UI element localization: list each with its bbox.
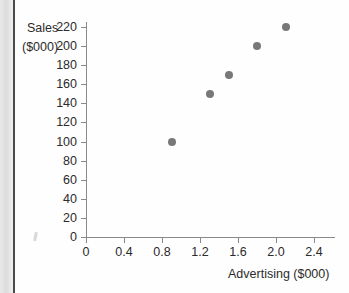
y-tick-mark (81, 46, 87, 47)
scatter-plot: Sales ($000) Advertising ($000) 02040608… (0, 0, 349, 293)
x-tick-label: 1.2 (191, 246, 208, 259)
x-tick-label: 0.8 (153, 246, 170, 259)
x-tick-mark (86, 237, 87, 243)
x-tick-label: 2.4 (305, 246, 322, 259)
y-tick-label: 120 (56, 116, 77, 129)
y-tick-mark (81, 103, 87, 104)
data-point (168, 138, 176, 146)
x-tick-label: 2.0 (267, 246, 284, 259)
data-point (282, 23, 290, 31)
x-tick-mark (314, 237, 315, 243)
y-tick-label: 180 (56, 59, 77, 72)
y-tick-mark (81, 27, 87, 28)
y-tick-label: 60 (63, 174, 77, 187)
y-tick-mark (81, 218, 87, 219)
data-point (225, 71, 233, 79)
y-tick-label: 220 (56, 21, 77, 34)
y-tick-mark (81, 122, 87, 123)
x-tick-label: 0.4 (115, 246, 132, 259)
y-tick-label: 100 (56, 136, 77, 149)
y-axis-title-line2: ($000) (22, 41, 58, 54)
y-axis-title-line1: Sales (27, 22, 58, 35)
data-point (206, 90, 214, 98)
x-tick-mark (200, 237, 201, 243)
x-tick-mark (276, 237, 277, 243)
y-tick-label: 160 (56, 78, 77, 91)
x-tick-label: 1.6 (229, 246, 246, 259)
y-tick-label: 40 (63, 193, 77, 206)
y-tick-label: 140 (56, 97, 77, 110)
y-tick-mark (81, 180, 87, 181)
y-axis-line (86, 22, 87, 238)
scanned-page: Sales ($000) Advertising ($000) 02040608… (0, 0, 349, 293)
data-point (253, 42, 261, 50)
y-tick-mark (81, 199, 87, 200)
x-tick-label: 0 (83, 246, 90, 259)
x-tick-mark (238, 237, 239, 243)
x-tick-mark (162, 237, 163, 243)
y-tick-label: 200 (56, 40, 77, 53)
y-tick-label: 80 (63, 155, 77, 168)
y-tick-mark (81, 65, 87, 66)
y-tick-label: 0 (70, 231, 77, 244)
y-tick-label: 20 (63, 212, 77, 225)
y-tick-mark (81, 161, 87, 162)
y-tick-mark (81, 142, 87, 143)
x-axis-title: Advertising ($000) (228, 268, 329, 281)
y-tick-mark (81, 84, 87, 85)
x-tick-mark (124, 237, 125, 243)
